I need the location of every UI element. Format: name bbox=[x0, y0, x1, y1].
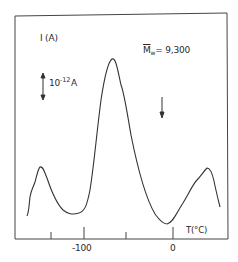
mw-value: = 9,300 bbox=[155, 45, 190, 55]
mw-subscript: w bbox=[151, 49, 156, 56]
x-tick-label-0: 0 bbox=[170, 243, 176, 253]
scale-base: 10 bbox=[49, 78, 60, 88]
y-axis-label: I (A) bbox=[40, 33, 58, 43]
scale-exponent: -12 bbox=[60, 76, 70, 84]
x-ticks bbox=[51, 227, 173, 239]
mw-annotation: Mw= 9,300 bbox=[143, 45, 190, 55]
x-tick-label-minus100: -100 bbox=[72, 243, 92, 253]
x-axis-label: T(°C) bbox=[186, 225, 207, 235]
chart-canvas bbox=[0, 0, 238, 262]
scale-bar-arrow bbox=[41, 73, 45, 100]
plot-frame bbox=[15, 13, 228, 239]
mw-symbol: M bbox=[143, 45, 151, 55]
scale-bar-label: 10-12A bbox=[49, 78, 77, 88]
marker-arrow bbox=[160, 97, 164, 118]
scale-unit: A bbox=[71, 78, 77, 88]
